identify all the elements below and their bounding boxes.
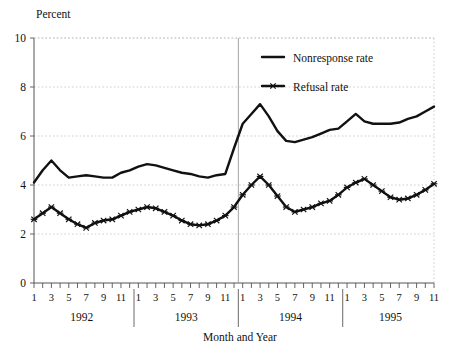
x-month-label-1993-05: 5	[171, 292, 176, 303]
x-month-label-1992-09: 9	[101, 292, 106, 303]
legend-label-1: Refusal rate	[293, 81, 348, 93]
data-point-1992-11	[118, 213, 125, 218]
data-point-1993-08	[196, 223, 203, 228]
data-point-1995-02	[352, 180, 359, 185]
data-point-1993-01	[135, 207, 142, 212]
x-month-label-1995-03: 3	[362, 292, 367, 303]
data-point-1992-12	[126, 209, 133, 214]
year-label-1994: 1994	[279, 311, 302, 323]
data-point-1995-04	[370, 182, 377, 187]
data-point-1995-10	[422, 187, 429, 192]
x-month-label-1992-11: 11	[116, 292, 126, 303]
x-month-label-1995-09: 9	[414, 292, 419, 303]
data-series	[31, 104, 438, 230]
x-month-label-1995-07: 7	[397, 292, 402, 303]
legend-entry-nonresponse-rate: Nonresponse rate	[262, 52, 373, 65]
y-label-2: 2	[20, 228, 26, 240]
data-point-1992-08	[92, 220, 99, 225]
x-month-label-1992-05: 5	[66, 292, 71, 303]
x-month-label-1992-01: 1	[31, 292, 36, 303]
data-point-1995-03	[361, 176, 368, 181]
x-month-label-1993-09: 9	[205, 292, 210, 303]
data-point-1995-01	[344, 185, 351, 190]
data-point-1995-08	[405, 196, 412, 201]
legend-label-0: Nonresponse rate	[293, 52, 373, 65]
x-month-label-1992-03: 3	[49, 292, 54, 303]
x-month-label-1994-11: 11	[325, 292, 335, 303]
data-point-1994-08	[300, 207, 307, 212]
series-nonresponse-rate	[34, 104, 434, 182]
year-label-1993: 1993	[175, 311, 198, 323]
x-axis-title: Month and Year	[203, 331, 277, 343]
data-point-1992-06	[74, 222, 81, 227]
data-point-1993-10	[213, 218, 220, 223]
data-point-1993-09	[205, 222, 212, 227]
chart-figure: 1357911135791113579111357911 0246810 199…	[0, 0, 457, 354]
axis-lines	[34, 38, 434, 283]
data-point-1994-03	[257, 174, 264, 179]
x-month-label-1994-07: 7	[292, 292, 297, 303]
legend-marker-1	[270, 83, 277, 88]
data-point-1994-09	[309, 204, 316, 209]
data-point-1995-11	[431, 181, 438, 186]
series-path-0	[34, 104, 434, 182]
year-label-1995: 1995	[379, 311, 402, 323]
legend-entry-refusal-rate: Refusal rate	[262, 81, 348, 93]
x-month-label-1994-05: 5	[275, 292, 280, 303]
data-point-1995-05	[379, 188, 386, 193]
data-point-1995-07	[396, 197, 403, 202]
x-month-label-1992-07: 7	[84, 292, 89, 303]
data-point-1993-11	[222, 213, 229, 218]
data-point-1992-04	[57, 210, 64, 215]
data-point-1992-03	[48, 204, 55, 209]
x-month-label-1993-11: 11	[220, 292, 230, 303]
x-month-label-1995-01: 1	[344, 292, 349, 303]
gridlines	[34, 38, 434, 234]
series-refusal-rate	[31, 174, 438, 231]
data-point-1995-09	[413, 192, 420, 197]
x-month-label-1995-11: 11	[429, 292, 439, 303]
data-point-1993-03	[152, 206, 159, 211]
data-point-1993-07	[187, 222, 194, 227]
data-point-1994-02	[248, 182, 255, 187]
x-axis-tickmarks	[34, 283, 434, 288]
legend: Nonresponse rateRefusal rate	[262, 52, 373, 93]
data-point-1993-04	[161, 209, 168, 214]
data-point-1993-05	[170, 213, 177, 218]
x-month-label-1994-03: 3	[257, 292, 262, 303]
data-point-1994-10	[318, 201, 325, 206]
x-month-label-1993-01: 1	[136, 292, 141, 303]
data-point-1995-06	[387, 195, 394, 200]
data-point-1994-12	[335, 192, 342, 197]
data-point-1992-02	[39, 210, 46, 215]
data-point-1992-07	[83, 225, 90, 230]
x-month-label-1993-03: 3	[153, 292, 158, 303]
data-point-1992-05	[65, 217, 72, 222]
x-month-label-1993-07: 7	[188, 292, 193, 303]
y-axis-value-labels: 0246810	[15, 32, 27, 289]
data-point-1993-02	[144, 204, 151, 209]
x-month-label-1994-09: 9	[310, 292, 315, 303]
x-month-label-1995-05: 5	[379, 292, 384, 303]
y-axis-title: Percent	[36, 8, 71, 20]
x-month-label-1994-01: 1	[240, 292, 245, 303]
data-point-1994-07	[292, 209, 299, 214]
x-axis-month-labels: 1357911135791113579111357911	[31, 292, 439, 303]
x-axis-year-labels: 1992199319941995	[70, 311, 402, 323]
y-label-8: 8	[20, 81, 26, 93]
y-axis-tickmarks	[30, 38, 34, 283]
year-label-1992: 1992	[70, 311, 93, 323]
data-point-1994-11	[326, 198, 333, 203]
y-label-10: 10	[15, 32, 27, 44]
data-point-1992-10	[109, 217, 116, 222]
line-chart-canvas: 1357911135791113579111357911 0246810 199…	[0, 0, 457, 354]
data-point-1993-06	[179, 218, 186, 223]
y-label-4: 4	[20, 179, 26, 191]
y-label-0: 0	[20, 277, 26, 289]
y-label-6: 6	[20, 130, 26, 142]
data-point-1992-09	[100, 218, 107, 223]
